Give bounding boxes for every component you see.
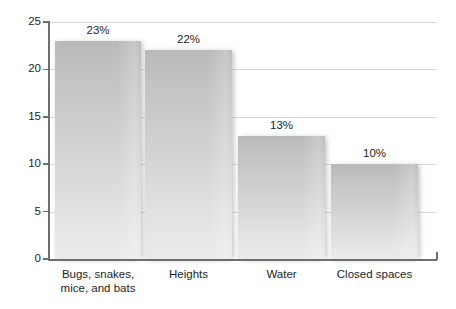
- y-axis-tick-label: 15: [3, 111, 41, 123]
- y-axis-tick-label: 25: [3, 16, 41, 28]
- bar-value-label: 23%: [86, 25, 109, 37]
- x-axis-category-label: Bugs, snakes, mice, and bats: [61, 268, 136, 295]
- x-axis-category-label: Heights: [169, 268, 208, 282]
- y-axis-line: [48, 21, 50, 260]
- y-axis-tick-label: 5: [3, 206, 41, 218]
- bar-value-label: 10%: [363, 148, 386, 160]
- y-axis-tick: [43, 163, 49, 165]
- y-axis-tick: [43, 21, 49, 23]
- y-axis-tick: [43, 258, 49, 260]
- bar: [55, 41, 141, 259]
- y-axis-tick: [43, 211, 49, 213]
- bar: [145, 50, 232, 259]
- x-axis-category-label: Water: [266, 268, 296, 282]
- bar: [238, 136, 325, 259]
- y-axis-tick-label: 10: [3, 158, 41, 170]
- y-axis-tick: [43, 69, 49, 71]
- x-axis-category-label: Closed spaces: [337, 268, 412, 282]
- x-axis-end-tick: [436, 252, 438, 260]
- x-axis-line: [48, 259, 437, 261]
- bar-value-label: 13%: [270, 120, 293, 132]
- plot-area: [49, 22, 437, 259]
- gridline: [49, 22, 437, 23]
- y-axis-tick-label: 20: [3, 64, 41, 76]
- bar-chart: 0510152025 23%22%13%10% Bugs, snakes, mi…: [0, 0, 456, 309]
- bar-value-label: 22%: [177, 34, 200, 46]
- bar: [331, 164, 418, 259]
- y-axis-tick-labels: 0510152025: [0, 0, 41, 309]
- y-axis-tick: [43, 116, 49, 118]
- y-axis-tick-label: 0: [3, 253, 41, 265]
